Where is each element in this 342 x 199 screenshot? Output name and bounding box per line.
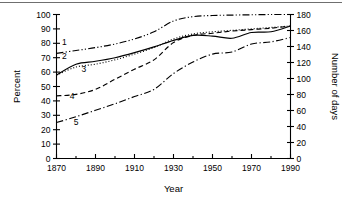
left-axis-tick-label: 70 [41,53,51,63]
top-divider-rule [0,2,342,3]
series-line-1 [57,14,291,53]
series-line-3 [57,26,291,75]
chart-figure: 0102030405060708090100020406080100120140… [0,0,342,199]
left-axis-tick-label: 40 [41,96,51,106]
right-axis-tick-label: 120 [297,58,311,68]
line-chart: 0102030405060708090100020406080100120140… [0,0,342,199]
right-axis-tick-label: 60 [297,106,307,116]
right-axis-tick-label: 180 [297,10,311,20]
right-axis-tick-label: 20 [297,138,307,148]
series-label-1: 1 [62,37,67,47]
series-line-5 [57,38,291,123]
left-axis-tick-label: 90 [41,24,51,34]
left-axis-tick-label: 50 [41,82,51,92]
left-axis-tick-label: 20 [41,125,51,135]
x-axis-tick-label: 1990 [281,163,300,173]
right-axis-tick-label: 40 [297,122,307,132]
axis-layer [53,15,294,159]
right-axis-tick-label: 100 [297,74,311,84]
series-label-2: 2 [62,51,67,61]
series-label-5: 5 [74,117,79,127]
right-axis-tick-label: 160 [297,26,311,36]
x-axis-tick-label: 1870 [47,163,66,173]
x-axis-title: Year [164,183,183,194]
left-axis-tick-label: 60 [41,67,51,77]
series-line-4 [57,26,291,96]
x-axis-tick-label: 1970 [242,163,261,173]
right-axis-title: Number of days [330,53,341,120]
x-axis-tick-label: 1930 [164,163,183,173]
right-axis-tick-label: 80 [297,90,307,100]
series-layer [57,14,291,122]
series-label-4: 4 [70,91,75,101]
left-axis-tick-label: 100 [36,10,50,20]
series-line-2 [57,26,291,75]
left-axis-tick-label: 30 [41,110,51,120]
left-axis-tick-label: 10 [41,139,51,149]
left-axis-title: Percent [11,70,22,103]
series-label-3: 3 [81,64,86,74]
x-axis-tick-label: 1890 [86,163,105,173]
right-axis-tick-label: 140 [297,42,311,52]
left-axis-tick-label: 80 [41,38,51,48]
label-layer: 0102030405060708090100020406080100120140… [11,10,341,195]
x-axis-tick-label: 1950 [203,163,222,173]
x-axis-tick-label: 1910 [125,163,144,173]
